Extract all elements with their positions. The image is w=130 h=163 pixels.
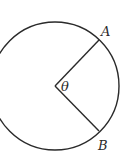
circle-diagram: A B θ [0,0,130,163]
circle [0,22,119,150]
point-b-label: B [97,138,108,153]
angle-theta-label: θ [61,79,69,94]
point-a-label: A [100,24,110,39]
